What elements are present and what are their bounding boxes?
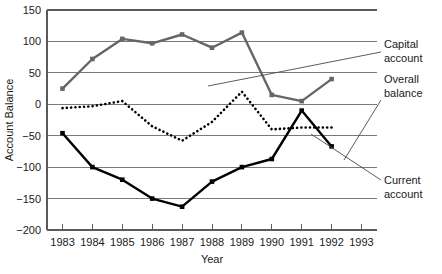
annotation-capital-account: Capital account bbox=[384, 38, 423, 64]
data-point-1992 bbox=[329, 77, 334, 82]
x-axis-title: Year bbox=[201, 253, 224, 265]
annotation-current-account: Current account bbox=[384, 174, 423, 200]
y-tick-label-0: 0 bbox=[35, 98, 41, 110]
x-tick-label-1990: 1990 bbox=[260, 236, 284, 248]
data-point-1987 bbox=[180, 32, 185, 37]
data-point-1988 bbox=[210, 45, 215, 50]
y-tick-label--50: −50 bbox=[22, 130, 41, 142]
x-tick-label-1986: 1986 bbox=[140, 236, 164, 248]
x-tick-label-1983: 1983 bbox=[50, 236, 74, 248]
x-tick-label-1989: 1989 bbox=[230, 236, 254, 248]
y-tick-label--100: −100 bbox=[16, 161, 41, 173]
y-axis-title: Account Balance bbox=[3, 79, 15, 162]
annotation-capital-line2: account bbox=[384, 52, 423, 64]
data-point-1986 bbox=[150, 41, 155, 46]
data-point-1985 bbox=[120, 177, 125, 182]
y-tick-label-100: 100 bbox=[23, 35, 41, 47]
x-tick-label-1984: 1984 bbox=[80, 236, 104, 248]
x-tick-label-1985: 1985 bbox=[110, 236, 134, 248]
y-tick-label--150: −150 bbox=[16, 193, 41, 205]
data-point-1984 bbox=[90, 57, 95, 62]
annotation-current-line1: Current bbox=[384, 174, 421, 186]
y-tick-labels: 150100500−50−100−150−200 bbox=[16, 4, 41, 236]
x-tick-label-1993: 1993 bbox=[349, 236, 373, 248]
data-point-1991 bbox=[299, 99, 304, 104]
y-tick-label-150: 150 bbox=[23, 4, 41, 16]
chart-svg: 150100500−50−100−150−200 198319841985198… bbox=[0, 0, 442, 274]
annotation-overall-line1: Overall bbox=[384, 73, 419, 85]
data-point-1989 bbox=[240, 30, 245, 35]
annotation-overall-balance: Overall balance bbox=[384, 73, 423, 99]
annotation-capital-line1: Capital bbox=[384, 38, 418, 50]
annotation-current-line2: account bbox=[384, 188, 423, 200]
data-point-1985 bbox=[120, 37, 125, 42]
data-point-1991 bbox=[299, 108, 304, 113]
x-tick-label-1988: 1988 bbox=[200, 236, 224, 248]
data-point-1989 bbox=[240, 165, 245, 170]
y-tick-label--200: −200 bbox=[16, 224, 41, 236]
data-point-1983 bbox=[60, 131, 65, 136]
data-point-1988 bbox=[210, 179, 215, 184]
x-tick-labels: 1983198419851986198719881989199019911992… bbox=[50, 236, 373, 248]
y-tick-label-50: 50 bbox=[29, 67, 41, 79]
data-point-1986 bbox=[150, 196, 155, 201]
plot-area-background bbox=[47, 10, 377, 230]
x-tick-label-1991: 1991 bbox=[289, 236, 313, 248]
annotation-overall-line2: balance bbox=[384, 87, 423, 99]
data-point-1990 bbox=[270, 157, 275, 162]
data-point-1983 bbox=[60, 86, 65, 91]
x-tick-label-1992: 1992 bbox=[319, 236, 343, 248]
data-point-1990 bbox=[270, 93, 275, 98]
x-tick-label-1987: 1987 bbox=[170, 236, 194, 248]
data-point-1987 bbox=[180, 204, 185, 209]
chart-figure: 150100500−50−100−150−200 198319841985198… bbox=[0, 0, 442, 274]
data-point-1984 bbox=[90, 165, 95, 170]
